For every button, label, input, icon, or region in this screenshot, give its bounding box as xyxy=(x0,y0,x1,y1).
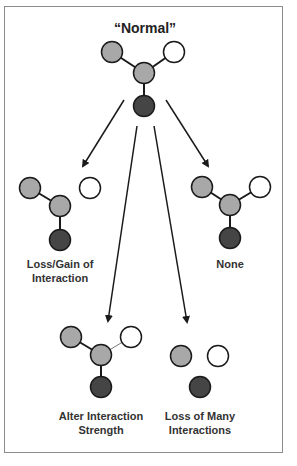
gray-node xyxy=(192,177,213,198)
loss-gain-label: Loss/Gain of Interaction xyxy=(27,257,94,285)
white-node xyxy=(208,346,229,367)
gray-node xyxy=(20,178,41,199)
alter-strength-molecule xyxy=(61,327,142,398)
arrow-to-loss-many xyxy=(154,126,187,322)
gray-node xyxy=(102,42,123,63)
loss-many-label: Loss of Many Interactions xyxy=(165,409,235,437)
label-line-2: Strength xyxy=(59,423,143,437)
dark-node xyxy=(50,230,71,251)
label-line-1: None xyxy=(216,257,244,271)
label-line-1: Loss of Many xyxy=(165,409,235,423)
normal-title: “Normal” xyxy=(114,20,176,36)
arrow-to-loss-gain xyxy=(83,100,124,166)
loss-many-molecule xyxy=(171,346,229,398)
dark-node xyxy=(220,228,241,249)
arrows xyxy=(83,100,208,322)
gray-node xyxy=(171,346,192,367)
center-node xyxy=(220,195,241,216)
gray-node xyxy=(61,327,82,348)
dark-node xyxy=(190,377,211,398)
loss-gain-molecule xyxy=(20,178,101,251)
center-node xyxy=(134,63,155,84)
label-line-2: Interaction xyxy=(27,271,94,285)
white-node xyxy=(164,42,185,63)
center-node xyxy=(91,345,112,366)
label-line-2: Interactions xyxy=(165,423,235,437)
normal-molecule xyxy=(102,42,185,117)
alter-strength-label: Alter Interaction Strength xyxy=(59,409,143,437)
white-node xyxy=(80,178,101,199)
white-node xyxy=(250,177,271,198)
arrow-to-alter-strength xyxy=(108,126,137,321)
none-molecule xyxy=(192,177,271,249)
arrow-to-none xyxy=(166,100,208,166)
interaction-diagram xyxy=(0,0,297,466)
dark-node xyxy=(134,96,155,117)
label-line-1: Loss/Gain of xyxy=(27,257,94,271)
label-line-1: Alter Interaction xyxy=(59,409,143,423)
white-node xyxy=(121,327,142,348)
none-label: None xyxy=(216,257,244,271)
dark-node xyxy=(91,377,112,398)
center-node xyxy=(50,196,71,217)
